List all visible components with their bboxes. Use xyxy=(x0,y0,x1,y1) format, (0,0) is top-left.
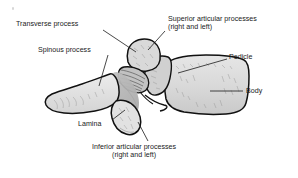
label-inferior-articular-processes-text: Inferior articular processes xyxy=(92,143,176,151)
label-transverse-process-text: Transverse process xyxy=(16,20,78,28)
label-spinous-process: Spinous process xyxy=(38,46,91,54)
label-superior-articular-processes-subtext: (right and left) xyxy=(168,23,257,31)
leader-inferior-articular-processes xyxy=(138,122,148,141)
label-transverse-process: Transverse process xyxy=(16,20,78,28)
label-superior-articular-processes-text: Superior articular processes xyxy=(168,15,257,23)
label-pedicle: Pedicle xyxy=(229,53,252,61)
leader-transverse-process xyxy=(103,30,136,52)
label-inferior-articular-processes-subtext: (right and left) xyxy=(92,151,176,159)
label-spinous-process-text: Spinous process xyxy=(38,46,91,54)
label-superior-articular-processes: Superior articular processes (right and … xyxy=(168,15,257,32)
label-pedicle-text: Pedicle xyxy=(229,53,252,61)
label-body: Body xyxy=(246,87,262,95)
label-body-text: Body xyxy=(246,87,262,95)
label-lamina-text: Lamina xyxy=(78,120,101,128)
spinous-process-structure xyxy=(45,74,119,114)
superior-articular-process-structure xyxy=(127,39,160,71)
label-lamina: Lamina xyxy=(78,120,101,128)
body-structure xyxy=(165,55,249,114)
label-inferior-articular-processes: Inferior articular processes (right and … xyxy=(92,143,176,160)
